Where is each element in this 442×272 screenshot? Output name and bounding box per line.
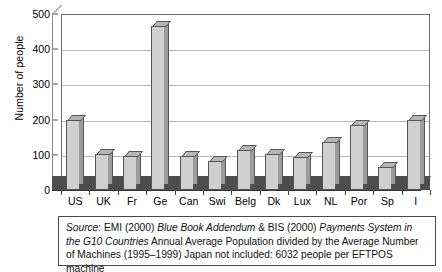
bar-lux[interactable]	[293, 14, 312, 190]
x-axis-tick-label-uk: UK	[96, 195, 111, 207]
bar-face	[95, 154, 109, 190]
x-axis-tick-label-dk: Dk	[267, 195, 280, 207]
y-axis-tick-labels: 0100200300400500	[20, 0, 50, 212]
x-axis-tick-label-fr: Fr	[127, 195, 137, 207]
x-axis-tick-mark	[231, 190, 232, 195]
bar-face	[237, 150, 251, 190]
x-axis-tick-label-lux: Lux	[294, 195, 311, 207]
x-axis-tick-label-i: I	[414, 195, 417, 207]
bar-face	[123, 156, 137, 190]
x-axis-tick-mark	[61, 190, 62, 195]
bar-series	[61, 14, 430, 190]
x-axis-tick-mark	[260, 190, 261, 195]
bar-face	[208, 161, 222, 190]
bar-fr[interactable]	[123, 14, 142, 190]
x-axis-tick-label-sp: Sp	[381, 195, 394, 207]
x-axis-tick-labels: USUKFrGeCanSwiBelgDkLuxNLPorSpI	[61, 192, 430, 210]
x-axis-tick-mark	[316, 190, 317, 195]
x-axis-tick-mark	[118, 190, 119, 195]
y-axis-tick-label: 100	[20, 149, 50, 161]
y-axis-tick-label: 400	[20, 43, 50, 55]
bar-face	[180, 156, 194, 190]
bar-face	[151, 26, 165, 190]
source-caption: Source: EMI (2000) Blue Book Addendum & …	[58, 216, 436, 266]
bar-face	[293, 157, 307, 190]
bar-uk[interactable]	[95, 14, 114, 190]
x-axis-tick-label-swi: Swi	[209, 195, 226, 207]
x-axis-tick-label-por: Por	[351, 195, 367, 207]
x-axis-tick-mark	[146, 190, 147, 195]
bar-sp[interactable]	[378, 14, 397, 190]
caption-italic-title-1: Blue Book Addendum	[157, 222, 255, 233]
x-axis-tick-mark	[373, 190, 374, 195]
bar-face	[350, 125, 364, 190]
bar-belg[interactable]	[237, 14, 256, 190]
x-axis-tick-label-us: US	[68, 195, 83, 207]
bar-por[interactable]	[350, 14, 369, 190]
bar-face	[407, 120, 421, 190]
bar-side-face	[164, 22, 169, 184]
chart-floor-front-edge	[52, 190, 421, 191]
bar-side-face	[79, 116, 84, 184]
x-axis-tick-mark	[402, 190, 403, 195]
x-axis-tick-mark	[203, 190, 204, 195]
bar-us[interactable]	[66, 14, 85, 190]
bar-side-face	[420, 116, 425, 184]
caption-source-label: Source	[66, 222, 98, 233]
x-axis-tick-label-nl: NL	[324, 195, 337, 207]
x-axis-tick-label-can: Can	[179, 195, 198, 207]
y-axis-tick-label: 200	[20, 114, 50, 126]
bar-i[interactable]	[407, 14, 426, 190]
bar-side-face	[363, 121, 368, 184]
x-axis-tick-label-ge: Ge	[153, 195, 167, 207]
x-axis-tick-mark	[288, 190, 289, 195]
bar-side-face	[250, 146, 255, 184]
x-axis-tick-label-belg: Belg	[235, 195, 256, 207]
bar-side-face	[278, 150, 283, 184]
x-axis-tick-mark	[345, 190, 346, 195]
bar-side-face	[335, 138, 340, 184]
bar-face	[378, 167, 392, 190]
bar-face	[265, 154, 279, 190]
y-axis-tick-label: 300	[20, 78, 50, 90]
bar-face	[322, 142, 336, 190]
bar-face	[66, 120, 80, 190]
x-axis-tick-mark	[89, 190, 90, 195]
bar-swi[interactable]	[208, 14, 227, 190]
bar-chart: Number of people 0100200300400500 USUKFr…	[0, 0, 442, 212]
chart-figure-container: Number of people 0100200300400500 USUKFr…	[0, 0, 442, 272]
bar-can[interactable]	[180, 14, 199, 190]
bar-ge[interactable]	[151, 14, 170, 190]
y-axis-tick-label: 0	[20, 184, 50, 196]
caption-text-1: EMI (2000)	[101, 222, 157, 233]
caption-text-2: & BIS (2000)	[255, 222, 319, 233]
bar-nl[interactable]	[322, 14, 341, 190]
y-axis-tick-label: 500	[20, 8, 50, 20]
x-axis-tick-mark	[430, 190, 431, 195]
bar-dk[interactable]	[265, 14, 284, 190]
x-axis-tick-mark	[175, 190, 176, 195]
